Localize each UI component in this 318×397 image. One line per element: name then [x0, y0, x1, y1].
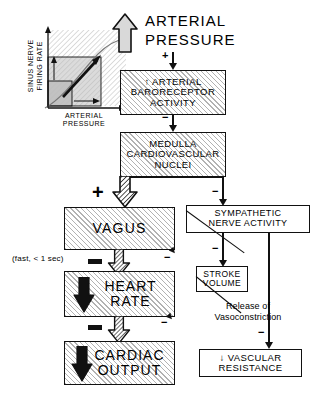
arrowhead-baroreceptor-to-medulla [169, 125, 177, 132]
sign-minus-vagus-to-heart-rate [88, 259, 102, 264]
annotation-release-line2: Vasoconstriction [190, 312, 306, 322]
graph-y-axis-arrowhead [45, 26, 51, 33]
graph-x-axis-label-line1: ARTERIAL [48, 112, 120, 120]
stroke-volume-line2: VOLUME [203, 279, 241, 288]
vascular-resistance-line2: RESISTANCE [218, 363, 282, 373]
sign-plus-to-baroreceptor: + [162, 50, 168, 61]
annotation-release-line1: Release of [196, 301, 300, 311]
box-vagus[interactable]: VAGUS [64, 207, 175, 250]
box-stroke-volume[interactable]: STROKE VOLUME [196, 266, 248, 292]
sign-minus-to-stroke-volume: − [212, 243, 218, 254]
diagram-canvas: SINUS NERVE FIRING RATE [0, 0, 318, 397]
stimulus-label-line2: PRESSURE [145, 32, 236, 49]
sign-plus-to-vagus: + [92, 182, 104, 202]
sign-minus-sv-to-cardiac-output: − [161, 317, 167, 328]
arrowhead-sna-to-vascular-resistance [265, 342, 273, 349]
sna-line2: NERVE ACTIVITY [209, 219, 288, 229]
cardiac-output-line1: CARDIAC [94, 348, 164, 363]
vagus-label: VAGUS [93, 221, 147, 236]
connector-medulla-bus [127, 176, 223, 178]
up-arrow-icon [112, 12, 138, 54]
down-arrow-icon-cardiac-output [71, 346, 93, 382]
box-arterial-baroreceptor-activity[interactable]: ↑ ARTERIAL BARORECEPTOR ACTIVITY [120, 70, 226, 115]
sign-minus-sna-to-heart-rate: − [164, 252, 170, 263]
connector-sna-to-vascular-resistance [268, 233, 270, 345]
cardiac-output-line2: OUTPUT [94, 363, 164, 378]
box-sympathetic-nerve-activity[interactable]: SYMPATHETIC NERVE ACTIVITY [186, 205, 310, 233]
sign-minus-to-medulla: − [162, 112, 168, 123]
medulla-line3: NUCLEI [126, 160, 219, 170]
sign-minus-heart-rate-to-cardiac-output [88, 325, 102, 330]
down-arrow-icon-heart-rate [73, 277, 95, 313]
baroreceptor-line3: ACTIVITY [131, 98, 215, 108]
sign-minus-to-vascular-resistance: − [258, 327, 264, 338]
box-cardiac-output[interactable]: CARDIAC OUTPUT [64, 341, 175, 385]
graph-x-axis-label-line2: PRESSURE [48, 120, 120, 128]
connector-sna-to-stroke-volume [222, 233, 224, 263]
box-vascular-resistance[interactable]: ↓ VASCULAR RESISTANCE [199, 349, 302, 377]
fat-down-arrow-medulla-to-vagus [112, 176, 138, 208]
heart-rate-line1: HEART [104, 279, 156, 294]
stimulus-label-line1: ARTERIAL [145, 13, 226, 30]
arrowhead-pressure-to-baroreceptor [169, 63, 177, 70]
annotation-speed-note: (fast, < 1 sec) [12, 255, 64, 264]
box-medulla-cardiovascular-nuclei[interactable]: MEDULLA CARDIOVASCULAR NUCLEI [120, 132, 226, 177]
fat-down-arrow-heart-rate-to-cardiac-output [107, 316, 131, 344]
box-heart-rate[interactable]: HEART RATE [64, 271, 175, 317]
heart-rate-line2: RATE [104, 294, 156, 309]
sign-minus-to-sympathetic: − [212, 186, 218, 197]
